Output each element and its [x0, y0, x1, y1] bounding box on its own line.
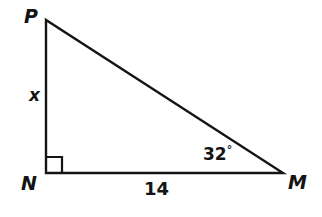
degree-symbol-icon: ° [227, 143, 233, 156]
vertex-label-m: M [288, 173, 307, 192]
triangle-pnm [46, 20, 283, 173]
angle-value: 32 [203, 144, 227, 164]
vertex-label-p: P [24, 7, 38, 26]
side-label-x: x [29, 87, 40, 104]
side-label-14: 14 [144, 180, 169, 198]
angle-label-32-degrees: 32° [203, 144, 232, 163]
geometry-figure: P N M x 14 32° [0, 0, 322, 217]
vertex-label-n: N [21, 174, 37, 193]
